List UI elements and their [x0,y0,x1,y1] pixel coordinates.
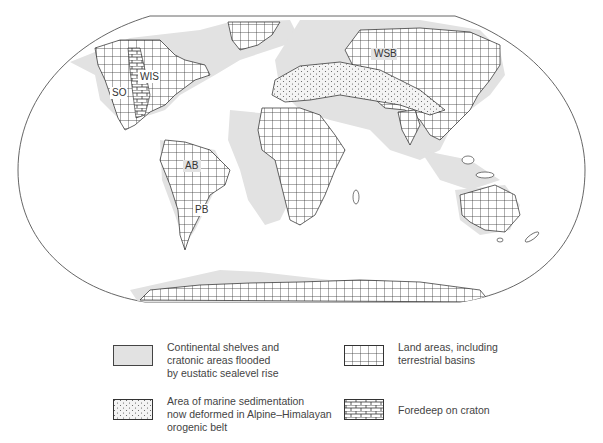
legend-text: orogenic belt [167,421,332,434]
legend-text: Land areas, including [398,341,498,354]
legend-item-marine-deformed: Area of marine sedimentation now deforme… [113,395,332,434]
dots-swatch-icon [113,399,153,420]
label-ab: AB [185,160,199,171]
legend-text: by eustatic sealevel rise [167,367,279,380]
legend-text: now deformed in Alpine–Himalayan [167,408,332,421]
legend-text: Continental shelves and [167,341,279,354]
legend-text: Area of marine sedimentation [167,395,332,408]
legend-text: Foredeep on craton [398,404,490,417]
label-wis: WIS [140,71,159,82]
label-wsb: WSB [374,48,397,59]
brick-swatch-icon [344,399,384,420]
gray-swatch-icon [113,345,153,366]
label-pb: PB [195,204,209,215]
grid-swatch-icon [344,345,384,366]
label-so: SO [112,87,127,98]
legend-item-land: Land areas, including terrestrial basins [344,341,498,367]
legend-text: cratonic areas flooded [167,354,279,367]
world-map: WIS SO AB PB WSB [0,0,603,320]
legend: Continental shelves and cratonic areas f… [0,320,603,443]
legend-item-flooded: Continental shelves and cratonic areas f… [113,341,279,380]
legend-text: terrestrial basins [398,354,498,367]
legend-item-foredeep: Foredeep on craton [344,395,490,420]
